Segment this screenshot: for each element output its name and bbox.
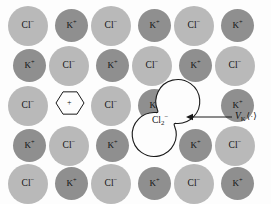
- ion-label: Cl−: [22, 179, 35, 189]
- ion-charge-superscript: −: [238, 58, 242, 65]
- ion-charge-superscript: −: [197, 176, 201, 183]
- ion-charge-superscript: −: [238, 138, 242, 145]
- vk-center-mark: ⟨·⟩: [247, 111, 257, 121]
- ion-charge-superscript: +: [197, 58, 201, 65]
- ion-clminus: Cl−: [49, 126, 89, 166]
- ion-kplus: K+: [55, 167, 88, 200]
- ion-charge-superscript: +: [114, 58, 118, 65]
- vk-symbol-main: V: [235, 111, 241, 121]
- ion-label: Cl−: [22, 21, 35, 31]
- ion-kplus: K+: [221, 167, 254, 200]
- ion-charge-superscript: +: [31, 58, 35, 65]
- ion-label: Cl−: [146, 61, 159, 71]
- ion-charge-superscript: +: [156, 176, 160, 183]
- ion-charge-superscript: −: [197, 18, 201, 25]
- ion-charge-superscript: −: [114, 18, 118, 25]
- ion-charge-superscript: +: [156, 18, 160, 25]
- ion-label: K+: [232, 179, 242, 188]
- ion-label: K+: [190, 141, 200, 150]
- ion-label: K+: [107, 141, 117, 150]
- ion-kplus: K+: [221, 9, 254, 42]
- ion-charge-superscript: +: [31, 138, 35, 145]
- ion-label: Cl−: [63, 61, 76, 71]
- vk-symbol-subscript: K: [241, 115, 246, 122]
- ion-label: Cl−: [229, 141, 242, 151]
- ion-clminus: Cl−: [91, 164, 131, 204]
- ion-clminus: Cl−: [8, 6, 48, 46]
- ion-label: K+: [66, 21, 76, 30]
- ion-label: K+: [232, 21, 242, 30]
- ion-clminus: Cl−: [49, 46, 89, 86]
- vk-center-annotation: VK⟨·⟩: [235, 112, 257, 122]
- lattice-figure: Cl−K+Cl−K+Cl−K+K+Cl−K+Cl−K+Cl−Cl−Cl−K+K+…: [0, 0, 271, 204]
- ion-clminus: Cl−: [174, 164, 214, 204]
- ion-charge-superscript: +: [239, 98, 243, 105]
- ion-kplus: K+: [179, 129, 212, 162]
- ion-clminus: Cl−: [8, 86, 48, 126]
- ion-clminus: Cl−: [215, 126, 255, 166]
- cl2-base: Cl: [152, 115, 161, 125]
- ion-label: Cl−: [105, 179, 118, 189]
- ion-kplus: K+: [138, 167, 171, 200]
- ion-label: K+: [24, 61, 34, 70]
- ion-charge-superscript: −: [31, 98, 35, 105]
- ion-charge-superscript: −: [31, 18, 35, 25]
- ion-charge-superscript: +: [239, 18, 243, 25]
- ion-label: K+: [149, 101, 159, 110]
- ion-charge-superscript: +: [239, 176, 243, 183]
- ion-kplus: K+: [13, 49, 46, 82]
- ion-label: K+: [149, 21, 159, 30]
- ion-charge-superscript: −: [114, 176, 118, 183]
- vacancy-charge-label: +: [67, 99, 72, 107]
- ion-label: K+: [24, 141, 34, 150]
- ion-charge-superscript: −: [114, 98, 118, 105]
- ion-charge-superscript: +: [73, 18, 77, 25]
- ion-charge-superscript: +: [114, 138, 118, 145]
- ion-charge-superscript: −: [72, 138, 76, 145]
- ion-label: K+: [232, 101, 242, 110]
- ion-label: Cl−: [229, 61, 242, 71]
- ion-charge-superscript: −: [72, 58, 76, 65]
- cl2-subscript: 2: [161, 119, 164, 126]
- ion-label: Cl−: [105, 101, 118, 111]
- ion-kplus: K+: [138, 9, 171, 42]
- ion-kplus: K+: [179, 49, 212, 82]
- ion-lattice: Cl−K+Cl−K+Cl−K+K+Cl−K+Cl−K+Cl−Cl−Cl−K+K+…: [0, 0, 271, 204]
- ion-label: Cl−: [188, 179, 201, 189]
- ion-clminus: Cl−: [174, 6, 214, 46]
- ion-clminus: Cl−: [8, 164, 48, 204]
- ion-charge-superscript: −: [155, 58, 159, 65]
- ion-clminus: Cl−: [132, 46, 172, 86]
- cl2-minus-label: Cl2−: [152, 116, 168, 126]
- cl2-superscript: −: [164, 113, 168, 120]
- ion-label: Cl−: [105, 21, 118, 31]
- ion-clminus: Cl−: [91, 6, 131, 46]
- ion-kplus: K+: [55, 9, 88, 42]
- ion-label: K+: [107, 61, 117, 70]
- ion-charge-superscript: +: [73, 176, 77, 183]
- ion-label: Cl−: [22, 101, 35, 111]
- ion-charge-superscript: +: [156, 98, 160, 105]
- ion-charge-superscript: −: [31, 176, 35, 183]
- ion-label: Cl−: [188, 21, 201, 31]
- ion-clminus: Cl−: [91, 86, 131, 126]
- ion-kplus: K+: [96, 49, 129, 82]
- ion-label: K+: [190, 61, 200, 70]
- ion-kplus: K+: [13, 129, 46, 162]
- ion-kplus: K+: [96, 129, 129, 162]
- ion-label: K+: [149, 179, 159, 188]
- ion-clminus: Cl−: [215, 46, 255, 86]
- ion-label: Cl−: [63, 141, 76, 151]
- ion-charge-superscript: +: [197, 138, 201, 145]
- ion-label: K+: [66, 179, 76, 188]
